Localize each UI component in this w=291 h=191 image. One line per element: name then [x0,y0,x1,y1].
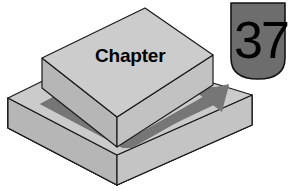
isometric-chapter-graphic: Chapter 37 [0,0,291,191]
chapter-opener-illustration: Chapter 37 [0,0,291,191]
chapter-number-badge: 37 [231,3,288,79]
chapter-word-label: Chapter [95,45,166,66]
chapter-number-label: 37 [234,11,288,69]
